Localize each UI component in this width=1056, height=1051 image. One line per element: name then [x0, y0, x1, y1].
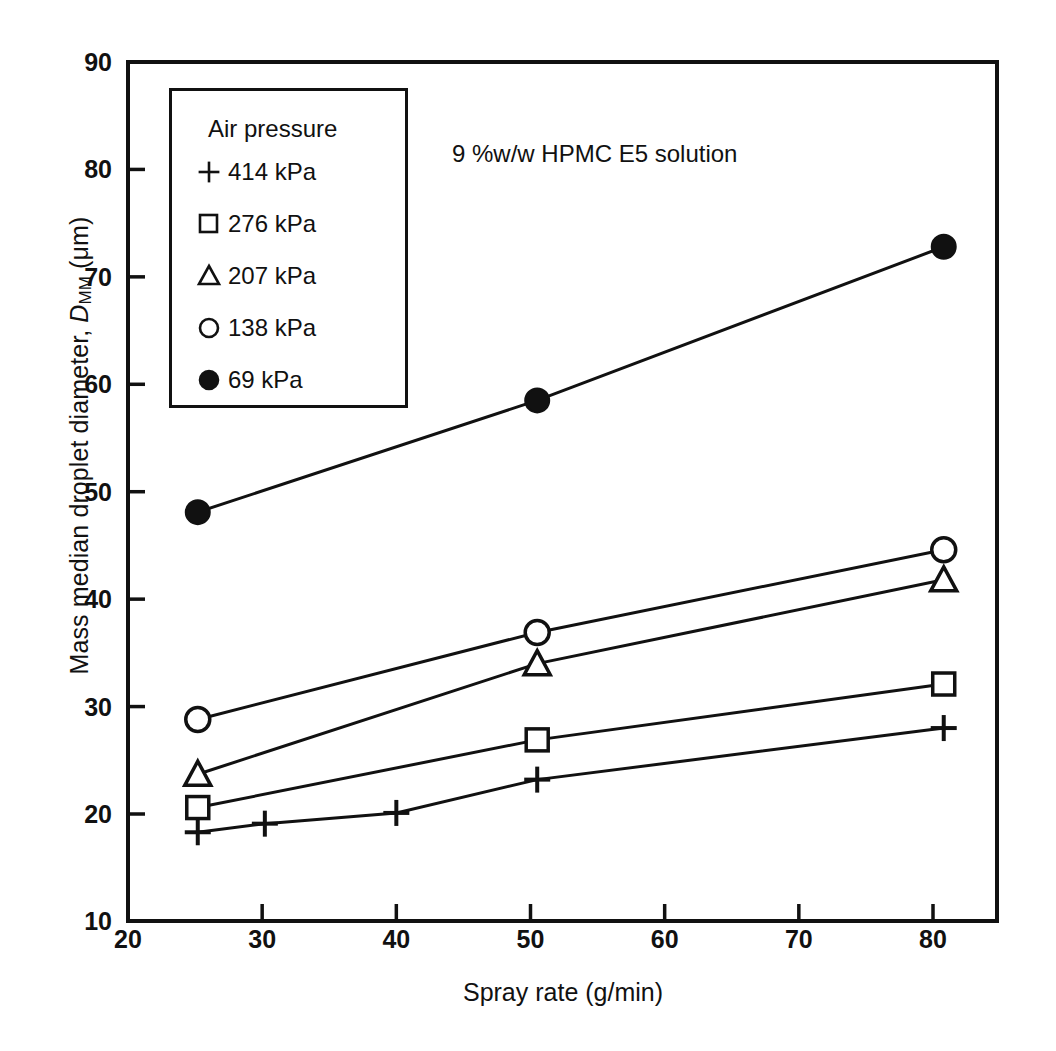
y-axis-title: Mass median droplet diameter, DMM (μm) — [65, 66, 96, 826]
legend-item-138-kpa[interactable]: 138 kPa — [194, 313, 316, 343]
legend-item-414-kpa[interactable]: 414 kPa — [194, 157, 316, 187]
data-point-marker — [931, 567, 957, 591]
plot-title: 9 %w/w HPMC E5 solution — [452, 140, 737, 168]
x-tick-label-40: 40 — [361, 925, 431, 954]
legend-marker-triangle-icon — [194, 263, 224, 289]
x-tick-label-30: 30 — [227, 925, 297, 954]
series-line — [198, 728, 944, 832]
data-point-marker — [200, 319, 218, 337]
series-276-kpa — [187, 673, 955, 819]
legend-box: Air pressure 414 kPa276 kPa207 kPa138 kP… — [169, 88, 408, 408]
data-point-marker — [199, 162, 220, 183]
data-point-marker — [187, 797, 209, 819]
legend-item-69-kpa[interactable]: 69 kPa — [194, 365, 303, 395]
legend-label: 69 kPa — [228, 366, 303, 394]
y-axis-subscript: MM — [76, 276, 95, 305]
data-point-marker — [931, 715, 957, 741]
data-point-marker — [383, 800, 409, 826]
legend-label: 414 kPa — [228, 158, 316, 186]
data-point-marker — [524, 767, 550, 793]
series-line — [198, 684, 944, 808]
x-tick-label-50: 50 — [496, 925, 566, 954]
x-axis-title: Spray rate (g/min) — [128, 978, 998, 1007]
legend-marker-circle-icon — [194, 315, 224, 341]
x-tick-label-80: 80 — [898, 925, 968, 954]
legend-label: 207 kPa — [228, 262, 316, 290]
data-point-marker — [932, 235, 956, 259]
series-line — [198, 580, 944, 774]
data-point-marker — [200, 215, 217, 232]
series-line — [198, 550, 944, 720]
y-axis-title-text: Mass median droplet diameter, — [65, 323, 93, 675]
legend-label: 276 kPa — [228, 210, 316, 238]
legend-marker-plus-icon — [194, 159, 224, 185]
legend-item-207-kpa[interactable]: 207 kPa — [194, 261, 316, 291]
y-axis-symbol: D — [65, 304, 93, 322]
y-axis-units: (μm) — [65, 217, 93, 276]
data-point-marker — [252, 811, 278, 837]
data-point-marker — [933, 673, 955, 695]
data-point-marker — [185, 761, 211, 785]
data-point-marker — [526, 729, 548, 751]
data-point-marker — [525, 620, 549, 644]
legend-marker-square-icon — [194, 211, 224, 237]
series-138-kpa — [186, 538, 956, 732]
data-point-marker — [932, 538, 956, 562]
data-point-marker — [199, 266, 219, 284]
x-tick-label-20: 20 — [93, 925, 163, 954]
data-point-marker — [185, 819, 211, 845]
x-tick-label-60: 60 — [630, 925, 700, 954]
data-point-marker — [525, 388, 549, 412]
chart-figure: 102030405060708090 20304050607080 Mass m… — [0, 0, 1056, 1051]
x-tick-label-70: 70 — [764, 925, 834, 954]
legend-item-276-kpa[interactable]: 276 kPa — [194, 209, 316, 239]
legend-title: Air pressure — [208, 115, 337, 143]
data-point-marker — [186, 500, 210, 524]
data-point-marker — [186, 707, 210, 731]
legend-label: 138 kPa — [228, 314, 316, 342]
legend-marker-circle-icon — [194, 367, 224, 393]
data-point-marker — [200, 371, 218, 389]
series-207-kpa — [185, 567, 957, 785]
